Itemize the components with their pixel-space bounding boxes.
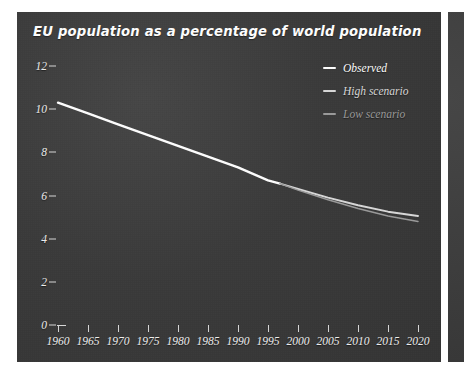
x-tick-label: 1985 <box>197 335 220 347</box>
x-tick-mark <box>58 325 59 332</box>
legend-swatch-icon <box>323 113 336 115</box>
x-tick-label: 2005 <box>317 335 340 347</box>
y-tick-label: 12 <box>36 60 59 72</box>
x-tick-mark <box>178 325 179 332</box>
legend-swatch-icon <box>323 67 336 69</box>
legend-item: High scenario <box>323 85 408 97</box>
x-tick-mark <box>118 325 119 332</box>
x-tick-mark <box>358 325 359 332</box>
y-tick-label: 6 <box>41 190 58 202</box>
x-tick-mark <box>388 325 389 332</box>
series-line <box>280 184 418 216</box>
x-tick-label: 1975 <box>137 335 160 347</box>
y-tick-label: 10 <box>36 103 59 115</box>
legend-label: Low scenario <box>343 108 405 120</box>
y-tick-label: 0 <box>41 319 58 331</box>
legend-label: Observed <box>343 62 387 74</box>
legend-label: High scenario <box>343 85 408 97</box>
x-tick-label: 1995 <box>257 335 280 347</box>
x-tick-mark <box>208 325 209 332</box>
legend-item: Low scenario <box>323 108 408 120</box>
adjacent-chart-panel-partial <box>448 12 464 362</box>
x-tick-label: 1965 <box>77 335 100 347</box>
x-tick-label: 1980 <box>167 335 190 347</box>
x-tick-label: 2010 <box>347 335 370 347</box>
legend-swatch-icon <box>323 90 336 92</box>
x-tick-mark <box>238 325 239 332</box>
y-tick-label: 2 <box>41 276 58 288</box>
x-tick-mark <box>298 325 299 332</box>
legend-item: Observed <box>323 62 408 74</box>
y-tick-label: 8 <box>41 146 58 158</box>
x-tick-mark <box>418 325 419 332</box>
x-tick-mark <box>268 325 269 332</box>
y-tick-label: 4 <box>41 233 58 245</box>
x-tick-mark <box>148 325 149 332</box>
x-tick-label: 2020 <box>407 335 430 347</box>
x-tick-label: 1970 <box>107 335 130 347</box>
chart-panel: EU population as a percentage of world p… <box>17 12 441 362</box>
chart-legend: ObservedHigh scenarioLow scenario <box>323 62 408 120</box>
x-tick-label: 1960 <box>47 335 70 347</box>
x-tick-label: 2015 <box>377 335 400 347</box>
x-tick-mark <box>328 325 329 332</box>
x-tick-mark <box>88 325 89 332</box>
series-line <box>58 103 280 184</box>
x-tick-label: 2000 <box>287 335 310 347</box>
chart-title: EU population as a percentage of world p… <box>33 24 421 39</box>
x-tick-label: 1990 <box>227 335 250 347</box>
